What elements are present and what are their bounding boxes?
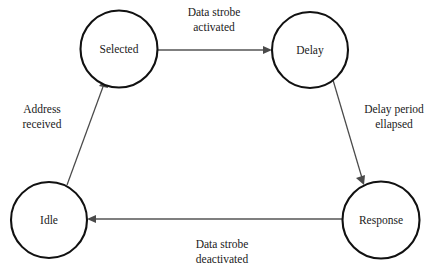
arrowhead-icon-response-to-idle: [87, 215, 96, 223]
transition-line-idle-to-selected: [67, 84, 104, 185]
state-node-response[interactable]: Response: [343, 182, 420, 259]
transition-idle-to-selected: Address received: [23, 78, 108, 185]
state-diagram: Data strobe activated Delay period ellap…: [0, 0, 433, 276]
transition-response-to-idle: Data strobe deactivated: [87, 215, 342, 265]
transition-selected-to-delay: Data strobe activated: [158, 6, 272, 54]
arrowhead-icon-delay-to-response: [356, 175, 365, 185]
transition-label-delay-to-response-line1: Delay period: [364, 103, 424, 116]
transition-label-idle-to-selected-line1: Address: [23, 103, 61, 115]
arrowhead-icon-selected-to-delay: [263, 46, 272, 54]
transition-label-response-to-idle-line1: Data strobe: [196, 238, 249, 250]
state-label-delay: Delay: [296, 44, 324, 57]
state-diagram-canvas: Data strobe activated Delay period ellap…: [0, 0, 433, 276]
state-label-selected: Selected: [100, 43, 139, 55]
transition-label-selected-to-delay-line1: Data strobe: [188, 6, 241, 18]
transition-label-delay-to-response-line2: ellapsed: [375, 118, 413, 131]
state-node-selected[interactable]: Selected: [81, 11, 158, 88]
state-node-idle[interactable]: Idle: [11, 182, 87, 258]
transition-label-response-to-idle-line2: deactivated: [196, 253, 249, 265]
state-label-response: Response: [359, 214, 403, 227]
transition-label-selected-to-delay-line2: activated: [193, 21, 235, 33]
transition-line-delay-to-response: [333, 80, 362, 178]
state-label-idle: Idle: [40, 214, 58, 226]
transition-label-idle-to-selected-line2: received: [23, 118, 62, 130]
state-node-delay[interactable]: Delay: [272, 12, 348, 88]
transition-delay-to-response: Delay period ellapsed: [333, 80, 424, 185]
